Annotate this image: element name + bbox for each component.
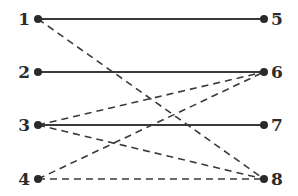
node-1-label: 1 <box>18 9 30 29</box>
node-6-dot <box>260 68 268 76</box>
node-8-label: 8 <box>271 169 283 189</box>
bipartite-graph-diagram: 12345678 <box>0 0 298 196</box>
node-2-label: 2 <box>18 62 30 82</box>
node-5-label: 5 <box>271 9 283 29</box>
node-3-dot <box>34 121 42 129</box>
node-5-dot <box>260 15 268 23</box>
node-4-label: 4 <box>18 169 30 189</box>
node-6-label: 6 <box>271 62 283 82</box>
node-7-dot <box>260 121 268 129</box>
edges-group <box>38 19 264 179</box>
edge-1-8-dashed <box>38 19 264 179</box>
node-1-dot <box>34 15 42 23</box>
node-7-label: 7 <box>271 115 283 135</box>
node-2-dot <box>34 68 42 76</box>
node-3-label: 3 <box>18 115 30 135</box>
edge-3-8-dashed <box>38 125 264 179</box>
node-4-dot <box>34 175 42 183</box>
node-8-dot <box>260 175 268 183</box>
